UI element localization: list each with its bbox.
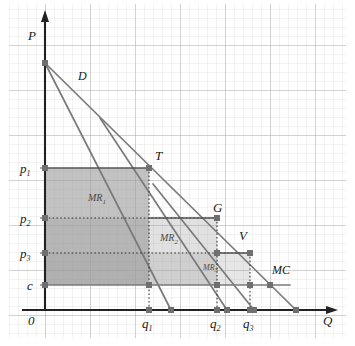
price-tick-p3-sub: 3 <box>26 254 31 263</box>
quantity-tick-q3-sub: 3 <box>249 324 254 333</box>
marker-c-axis <box>42 282 48 288</box>
x-axis-label: Q <box>323 313 333 328</box>
curve-label-MR3-text: MR <box>202 263 215 272</box>
marker-demand-intercept-x <box>293 307 299 313</box>
marker-q2-axis <box>214 307 220 313</box>
marker-mr2-mc <box>214 282 220 288</box>
marker-mr1-mc <box>146 282 152 288</box>
price-tick-p1-sub: 1 <box>27 169 31 178</box>
curve-label-D: D <box>77 69 87 83</box>
profit-rect-3 <box>45 253 250 285</box>
price-tick-c-text: c <box>27 278 33 293</box>
marker-demand-mc <box>267 282 273 288</box>
curve-label-MR1-sub: 1 <box>102 198 106 206</box>
curve-label-MR1-text: MR <box>87 192 102 203</box>
curve-label-MR2-sub: 2 <box>174 238 178 246</box>
point-label-G: G <box>213 200 223 215</box>
y-axis-label: P <box>27 28 36 43</box>
marker-demand-intercept <box>42 60 48 66</box>
marker-point-V <box>247 250 253 256</box>
marker-mr3-intercept <box>251 307 257 313</box>
marker-mr2-start <box>214 250 220 256</box>
marker-mr2-intercept <box>224 307 230 313</box>
quantity-tick-q2-sub: 2 <box>217 324 221 333</box>
curve-label-MC-text: MC <box>271 263 291 277</box>
diagram-canvas: P Q 0 p1 p2 p3 c q1 q2 q3 D MC <box>0 0 355 346</box>
price-discrimination-diagram: P Q 0 p1 p2 p3 c q1 q2 q3 D MC <box>0 0 355 346</box>
marker-p3-axis <box>42 250 48 256</box>
quantity-tick-q1-sub: 1 <box>149 324 153 333</box>
price-tick-p2-sub: 2 <box>27 219 31 228</box>
marker-mr1-intercept <box>168 307 174 313</box>
marker-q1-axis <box>146 307 152 313</box>
marker-p2-axis <box>42 215 48 221</box>
marker-mr3-mc <box>247 282 253 288</box>
curve-label-MR2-text: MR <box>159 232 174 243</box>
marker-point-T <box>146 165 152 171</box>
curve-label-MR3-sub: 3 <box>214 266 219 274</box>
price-tick-c: c <box>27 278 33 293</box>
marker-point-G <box>214 215 220 221</box>
point-label-T: T <box>155 148 163 163</box>
curve-label-MC: MC <box>271 263 291 277</box>
marker-p1-axis <box>42 165 48 171</box>
origin-label: 0 <box>28 313 35 328</box>
